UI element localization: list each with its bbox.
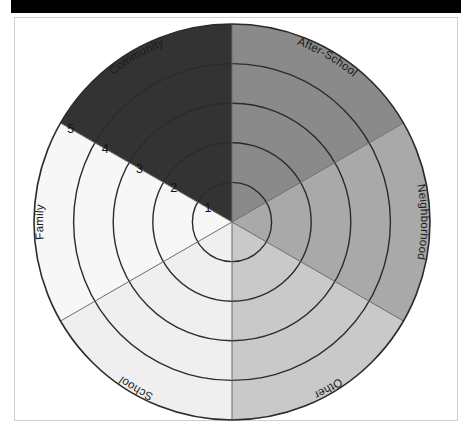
figure-root: CommunityAfter-SchoolNeighborhoodOtherSc…	[0, 0, 472, 440]
ring-number-4: 4	[102, 142, 109, 156]
ring-number-2: 2	[170, 181, 177, 195]
concentric-sector-chart: CommunityAfter-SchoolNeighborhoodOtherSc…	[0, 0, 472, 440]
ring-number-5: 5	[67, 122, 74, 136]
ring-number-1: 1	[205, 201, 212, 215]
sector-label-family: Family	[33, 204, 46, 241]
ring-number-3: 3	[136, 162, 143, 176]
